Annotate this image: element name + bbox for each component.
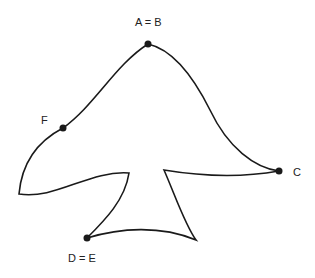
point-de [84, 235, 91, 242]
label-de: D = E [68, 253, 96, 264]
curve-figure [0, 0, 315, 278]
point-c [276, 168, 283, 175]
point-f [60, 125, 67, 132]
label-ab: A = B [135, 17, 162, 28]
closed-curve [19, 44, 279, 240]
label-f: F [41, 115, 48, 126]
point-ab [145, 41, 152, 48]
diagram-canvas: A = B F C D = E [0, 0, 315, 278]
label-c: C [293, 167, 301, 178]
